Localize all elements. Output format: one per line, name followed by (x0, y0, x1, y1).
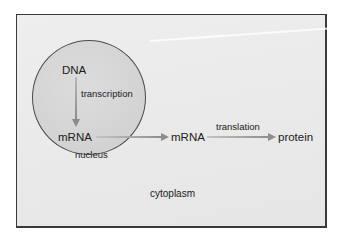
protein-label: protein (278, 132, 313, 144)
transcription-arrow-icon (72, 77, 80, 127)
translation-label: translation (216, 122, 260, 132)
cytoplasm-label: cytoplasm (150, 189, 195, 199)
transcription-label: transcription (81, 89, 133, 99)
dna-label: DNA (62, 65, 86, 77)
mrna-cytoplasmic-label: mRNA (171, 132, 205, 144)
arrows-layer (0, 0, 344, 237)
translation-arrow-icon (207, 133, 276, 141)
nucleus-label: nucleus (75, 150, 108, 160)
mrna-nuclear-label: mRNA (58, 132, 92, 144)
export-arrow-icon (96, 133, 169, 141)
